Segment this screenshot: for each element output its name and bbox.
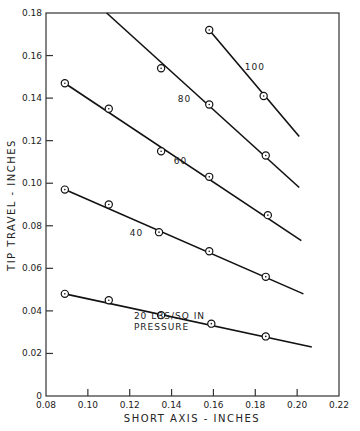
data-point-dot [208, 29, 210, 31]
plot-border [46, 13, 339, 396]
x-tick-label: 0.22 [329, 400, 349, 410]
y-tick-label: 0.12 [22, 136, 42, 146]
series-annotation: 40 [130, 228, 143, 238]
y-tick-label: 0.06 [22, 263, 42, 273]
chart: 00.020.040.060.080.100.120.140.160.18 0.… [0, 0, 360, 431]
x-axis-title: SHORT AXIS - INCHES [124, 413, 260, 424]
plot-frame [46, 13, 339, 396]
data-point-dot [64, 189, 66, 191]
annotation-layer: 10080604020 LBS/SQ INPRESSURE [130, 62, 265, 332]
y-tick-label: 0.02 [22, 348, 42, 358]
y-tick-label: 0.10 [22, 178, 42, 188]
y-tick-label: 0.16 [22, 51, 42, 61]
x-tick-label: 0.10 [78, 400, 98, 410]
data-point-dot [211, 323, 213, 325]
series-80 [107, 13, 300, 187]
data-point-dot [160, 68, 162, 70]
y-axis-title: TIP TRAVEL - INCHES [6, 139, 17, 272]
data-point-dot [108, 204, 110, 206]
data-point-dot [108, 299, 110, 301]
x-tick-label: 0.16 [203, 400, 223, 410]
data-point-dot [208, 104, 210, 106]
x-tick-label: 0.08 [36, 400, 56, 410]
series-annotation: 100 [245, 62, 265, 72]
series-line [107, 13, 300, 187]
series-annotation: 80 [178, 94, 191, 104]
series-40 [61, 186, 303, 294]
series-layer [61, 13, 312, 347]
data-point-dot [108, 108, 110, 110]
y-tick-label: 0.18 [22, 8, 42, 18]
y-tick-label: 0.08 [22, 221, 42, 231]
y-tick-label: 0.04 [22, 306, 42, 316]
series-annotation: PRESSURE [134, 322, 189, 332]
x-tick-label: 0.14 [162, 400, 182, 410]
data-point-dot [208, 251, 210, 253]
x-tick-label: 0.12 [120, 400, 140, 410]
series-line [209, 30, 299, 136]
data-point-dot [64, 293, 66, 295]
y-tick-label: 0.14 [22, 93, 42, 103]
series-annotation: 60 [174, 156, 187, 166]
x-axis: 0.080.100.120.140.160.180.200.22 [36, 389, 349, 410]
data-point-dot [160, 151, 162, 153]
data-point-dot [158, 231, 160, 233]
data-point-dot [265, 155, 267, 157]
data-point-dot [64, 82, 66, 84]
series-annotation: 20 LBS/SQ IN [134, 311, 205, 321]
series-100 [206, 26, 300, 136]
data-point-dot [265, 336, 267, 338]
x-tick-label: 0.20 [287, 400, 307, 410]
y-axis: 00.020.040.060.080.100.120.140.160.18 [22, 8, 53, 401]
x-tick-label: 0.18 [245, 400, 265, 410]
data-point-dot [208, 176, 210, 178]
data-point-dot [267, 214, 269, 216]
data-point-dot [263, 95, 265, 97]
data-point-dot [265, 276, 267, 278]
